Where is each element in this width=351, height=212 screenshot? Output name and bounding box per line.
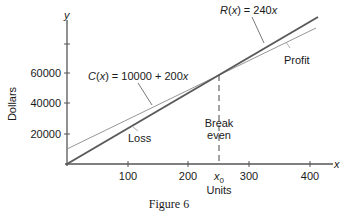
profit-leader [286,42,290,48]
x-label-400: 400 [301,170,319,182]
profit-label: Profit [284,54,310,66]
y-label-60000: 60000 [30,67,61,79]
r-leader [252,17,264,43]
y-label-40000: 40000 [30,97,61,109]
x0-label: x0 [213,170,225,185]
cost-label: C(x) = 10000 + 200x [88,70,189,82]
cost-line [67,28,316,149]
revenue-label: R(x) = 240x [220,4,278,16]
loss-leader [133,127,138,131]
figure-caption: Figure 6 [149,197,189,211]
x-label-300: 300 [240,170,258,182]
revenue-line [67,17,318,164]
x-label-200: 200 [179,170,197,182]
c-leader [138,83,152,105]
break-even-label-line2: even [207,129,231,141]
break-even-chart: y x 60000 40000 20000 Dollars 100 200 30… [0,0,351,212]
loss-label: Loss [128,132,152,144]
y-var-label: y [63,9,71,21]
break-even-label-line1: Break [205,117,234,129]
y-label-20000: 20000 [30,128,61,140]
x-axis-title: Units [206,184,232,196]
x-var-label: x [333,158,340,170]
y-axis-title: Dollars [6,86,18,121]
x-label-100: 100 [119,170,137,182]
